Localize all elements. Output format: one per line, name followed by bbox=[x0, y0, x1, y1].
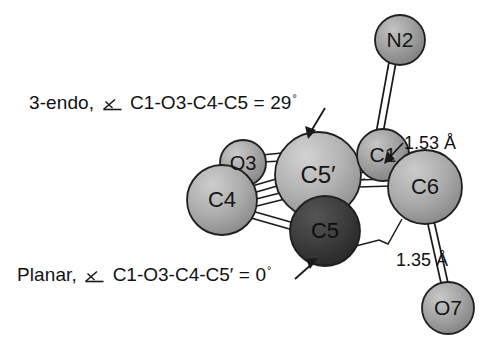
molecular-structure-figure: N2 O3 C5′ C1 C4 C6 C5 O7 3-endo, C1-O3-C… bbox=[0, 0, 499, 345]
bond-c4-c5 bbox=[251, 211, 294, 230]
molecule-diagram bbox=[0, 0, 499, 345]
annotation-planar-torsion: C1-O3-C4-C5′ bbox=[113, 264, 234, 285]
atom-c4 bbox=[187, 165, 257, 235]
bond-length-label-c6-o7: 1.35 Å bbox=[396, 250, 448, 271]
atom-c6 bbox=[388, 150, 462, 224]
measured-angle-icon bbox=[84, 266, 106, 280]
atom-n2 bbox=[375, 15, 425, 65]
annotation-3-endo-degree: ° bbox=[293, 92, 298, 104]
bond-length-label-c1-c6: 1.53 Å bbox=[404, 133, 456, 154]
annotation-planar-prefix: Planar, bbox=[17, 264, 77, 285]
measured-angle-icon bbox=[102, 94, 124, 108]
annotation-planar-equals: = bbox=[239, 264, 250, 285]
atom-o7 bbox=[422, 282, 474, 334]
annotation-3-endo-value: 29 bbox=[270, 92, 291, 113]
annotation-3-endo-equals: = bbox=[254, 92, 265, 113]
annotation-planar-value: 0 bbox=[255, 264, 266, 285]
annotation-3-endo-torsion: C1-O3-C4-C5 bbox=[130, 92, 248, 113]
annotation-3-endo: 3-endo, C1-O3-C4-C5 = 29° bbox=[29, 92, 297, 114]
atom-group bbox=[187, 15, 474, 334]
annotation-planar: Planar, C1-O3-C4-C5′ = 0° bbox=[17, 264, 272, 286]
annotation-planar-degree: ° bbox=[267, 264, 272, 276]
atom-c5 bbox=[290, 196, 360, 266]
annotation-3-endo-prefix: 3-endo, bbox=[29, 92, 94, 113]
